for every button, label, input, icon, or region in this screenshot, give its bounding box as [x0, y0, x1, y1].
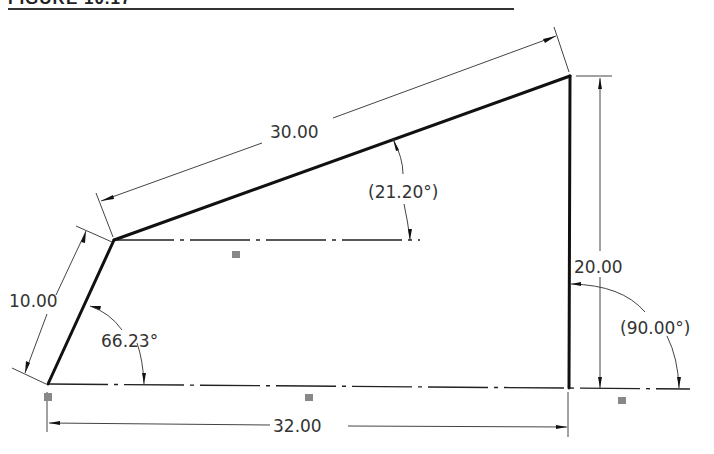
dimension-30-label: 30.00 — [270, 122, 319, 142]
angle-21-dimension[interactable]: (21.20°) — [368, 139, 438, 240]
dimension-10-label: 10.00 — [9, 291, 58, 311]
horizontal-relation-icon[interactable] — [618, 397, 626, 404]
bottom-centerline[interactable] — [48, 384, 690, 389]
dimension-30[interactable]: 30.00 — [96, 27, 569, 237]
angle-21-label: (21.20°) — [368, 182, 438, 202]
angle-90-dimension[interactable]: (90.00°) — [571, 282, 690, 388]
angle-66-dimension[interactable]: 66.23° — [90, 306, 158, 384]
angle-66-label: 66.23° — [101, 331, 158, 351]
dimension-20[interactable]: 20.00 — [574, 76, 623, 388]
left-edge-line[interactable] — [48, 240, 114, 384]
fixed-relation-icon[interactable] — [44, 393, 52, 401]
top-slanted-line[interactable] — [114, 76, 570, 240]
sketch-canvas: 10.00 30.00 (21.20°) 66.23° 20.00 — [0, 0, 714, 454]
dimension-20-label: 20.00 — [574, 257, 623, 277]
angle-90-label: (90.00°) — [620, 318, 690, 338]
dimension-32-label: 32.00 — [273, 416, 322, 436]
horizontal-relation-icon[interactable] — [305, 394, 313, 401]
right-vertical-line[interactable] — [569, 76, 570, 388]
horizontal-relation-icon[interactable] — [232, 251, 240, 258]
